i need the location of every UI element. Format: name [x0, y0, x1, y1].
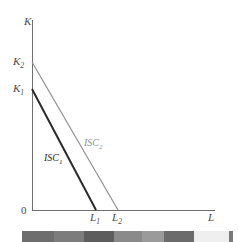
isocost-figure: K K2 K1 0 L1 L2 L ISC1 ISC2 — [0, 0, 238, 242]
chart-svg — [0, 0, 238, 228]
isc1-curve-label: ISC1 — [44, 153, 63, 166]
calibration-swatch-1 — [22, 231, 54, 242]
calibration-swatch-0 — [0, 231, 22, 242]
calibration-swatch-6 — [164, 231, 194, 242]
calibration-swatch-7 — [194, 231, 229, 242]
grayscale-calibration-bar — [0, 231, 238, 242]
x-axis-title: L — [208, 212, 214, 223]
x-tick-label-l1: L1 — [90, 212, 100, 226]
calibration-swatch-4 — [114, 231, 142, 242]
y-tick-label-k1: K1 — [13, 83, 24, 97]
isc2-curve — [32, 62, 118, 210]
y-tick-label-k2: K2 — [13, 56, 24, 70]
calibration-swatch-9 — [233, 231, 238, 242]
y-axis-title: K — [24, 16, 31, 27]
x-tick-label-l2: L2 — [112, 212, 122, 226]
origin-label: 0 — [21, 205, 27, 216]
chart-plot-area — [0, 0, 238, 228]
isc2-curve-label: ISC2 — [84, 138, 103, 151]
calibration-swatch-3 — [84, 231, 114, 242]
calibration-swatch-2 — [54, 231, 84, 242]
calibration-swatch-5 — [142, 231, 164, 242]
